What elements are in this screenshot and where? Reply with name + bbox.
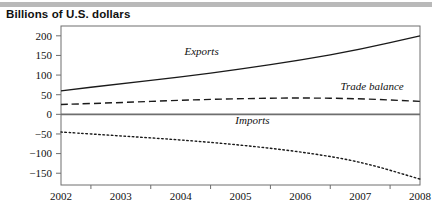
x-axis-ticks <box>91 185 390 189</box>
x-tick-label: 2002 <box>50 190 72 202</box>
y-tick-label: 50 <box>41 89 53 101</box>
y-axis-tick-labels: 200150100500−50−100−150 <box>29 30 52 179</box>
series-label-trade-balance: Trade balance <box>341 80 404 92</box>
x-tick-label: 2007 <box>349 190 372 202</box>
x-tick-label: 2005 <box>230 190 253 202</box>
chart-svg: 200150100500−50−100−150 2002200320042005… <box>0 0 432 215</box>
y-axis-ticks <box>56 36 61 173</box>
chart-figure: 200150100500−50−100−150 2002200320042005… <box>0 0 432 215</box>
y-tick-label: −150 <box>29 167 52 179</box>
plot-frame <box>61 26 420 185</box>
y-tick-label: −50 <box>35 128 53 140</box>
x-tick-label: 2008 <box>409 190 432 202</box>
data-series-group <box>61 36 420 179</box>
series-line-imports <box>61 132 420 179</box>
x-tick-label: 2004 <box>170 190 193 202</box>
x-axis-tick-labels: 2002200320042005200620072008 <box>50 190 432 202</box>
y-tick-label: 150 <box>36 49 53 61</box>
series-line-trade-balance <box>61 98 420 104</box>
y-tick-label: 100 <box>36 69 53 81</box>
x-tick-label: 2006 <box>289 190 312 202</box>
y-tick-label: −100 <box>29 147 52 159</box>
y-tick-label: 0 <box>47 108 53 120</box>
x-tick-label: 2003 <box>110 190 133 202</box>
series-label-exports: Exports <box>183 45 218 57</box>
y-tick-label: 200 <box>36 30 53 42</box>
series-label-imports: Imports <box>234 114 269 126</box>
